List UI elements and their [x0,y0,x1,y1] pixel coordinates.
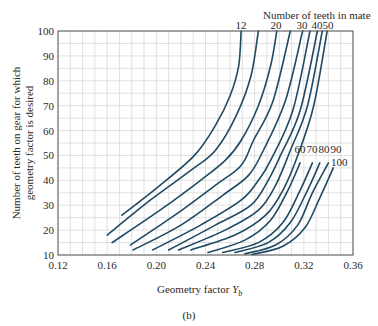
y-tick-label: 20 [43,224,55,236]
x-tick-label: 0.20 [147,259,167,271]
y-tick-label: 30 [43,199,55,211]
y-tick-label: 90 [43,50,55,62]
x-tick-label: 0.12 [48,259,67,271]
svg-text:Number of teeth on gear for wh: Number of teeth on gear for which [10,66,22,219]
curve-label-80: 80 [319,143,331,155]
right-curve-labels: 60708090 [295,143,343,155]
curve-label-50: 50 [323,19,335,31]
curve-label-40: 40 [312,19,324,31]
curve-label-12: 12 [236,19,247,31]
curve-mate-12 [122,31,241,215]
curve-mate-60 [208,163,300,253]
y-axis-ticks: 102030405060708090100 [38,25,55,261]
x-axis-ticks: 0.120.160.200.240.280.320.36 [48,259,363,271]
chart: 102030405060708090100 0.120.160.200.240.… [0,0,378,326]
x-tick-label: 0.28 [245,259,265,271]
curve-label-60: 60 [295,143,307,155]
x-tick-label: 0.32 [294,259,313,271]
curve-label-90: 90 [331,143,343,155]
x-tick-label: 0.36 [343,259,363,271]
x-tick-label: 0.24 [196,259,216,271]
curve-mate-50 [191,31,327,250]
y-tick-label: 70 [43,100,55,112]
y-tick-label: 40 [43,174,55,186]
svg-text:geometry factor is desired: geometry factor is desired [23,85,35,200]
x-tick-label: 0.16 [98,259,118,271]
curve-label-30: 30 [297,19,309,31]
curve-label-70: 70 [307,143,319,155]
figure-caption: (b) [0,309,378,321]
y-tick-label: 100 [38,25,55,37]
y-axis-label: Number of teeth on gear for which geomet… [10,66,35,219]
x-axis-label: Geometry factor Yb [157,283,242,298]
curve-mate-45 [179,31,323,250]
y-tick-label: 60 [43,125,55,137]
y-tick-label: 50 [43,149,55,161]
y-tick-label: 80 [43,75,55,87]
curve-label-100: 100 [331,156,348,168]
curve-mate-25 [131,31,291,245]
curve-label-20: 20 [271,19,283,31]
